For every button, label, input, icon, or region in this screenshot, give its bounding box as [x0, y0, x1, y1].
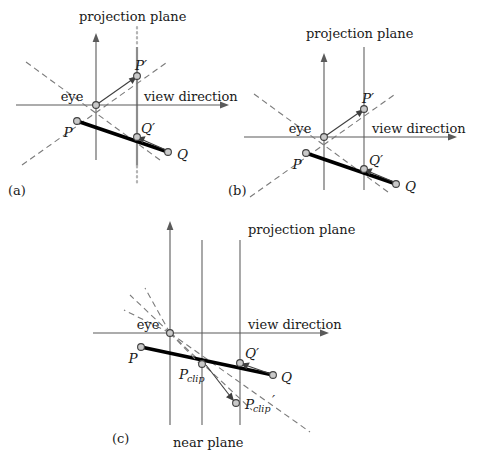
panel-b-vertical-axis-arrowhead: [321, 53, 328, 62]
panel-c-point-eye: [167, 330, 174, 337]
panel-c-title: projection plane: [248, 222, 356, 237]
panel-b-panel-label: (b): [228, 183, 246, 198]
panel-c-projector-Pclip-to-Pclip-prime: [206, 365, 230, 396]
panel-b-view-direction-label: view direction: [371, 121, 466, 136]
panel-b-label-P-prime: P′: [361, 90, 374, 106]
figure-root: projection plane eye view direction P P′…: [0, 0, 488, 461]
panel-b-eye-label: eye: [289, 121, 312, 136]
panel-c-label-Q-prime: Q′: [245, 345, 259, 361]
panel-c-label-P-clip-prime: P clip ′: [244, 392, 275, 414]
panel-c-near-plane-label: near plane: [173, 435, 244, 450]
panel-c-point-P-clip: [199, 361, 206, 368]
panel-b-point-Q-prime: [361, 166, 368, 173]
panel-a-label-Q-prime: Q′: [141, 120, 155, 136]
panel-b-label-P: P: [291, 156, 302, 172]
panel-b-projector-eye-to-Pprime: [324, 112, 360, 137]
panel-c: projection plane eye view direction P Q …: [93, 221, 356, 450]
panel-a-label-P: P: [62, 124, 73, 140]
panel-a-point-P-prime: [134, 73, 141, 80]
panel-a-label-Q: Q: [177, 146, 188, 162]
panel-a-projector-eye-to-Pprime: [96, 79, 133, 105]
panel-c-label-P-clip-subscript: clip: [187, 373, 204, 384]
panel-c-vertical-axis-arrowhead: [167, 221, 174, 230]
panel-b-label-Q-prime: Q′: [369, 152, 383, 168]
panel-a-title: projection plane: [79, 9, 187, 24]
panel-b-point-P: [303, 150, 310, 157]
panel-b-dashed-ray-eye-to-Pprime: [250, 95, 394, 197]
panel-a-vertical-axis-arrowhead: [93, 33, 100, 42]
panel-b-label-Q: Q: [405, 178, 416, 194]
panel-b: projection plane eye view direction P P′…: [228, 26, 466, 198]
panel-c-panel-label: (c): [112, 431, 129, 446]
panel-c-label-P-clip: P clip: [178, 366, 204, 384]
panel-c-projector-Pclip-prime-arrowhead: [226, 392, 234, 401]
panel-c-point-Q: [270, 372, 277, 379]
panel-c-point-Q-prime: [237, 360, 244, 367]
panel-b-point-eye: [321, 134, 328, 141]
panel-a-eye-label: eye: [61, 89, 84, 104]
panel-c-eye-label: eye: [137, 317, 160, 332]
panel-c-label-P-clip-prime-subscript: clip: [253, 403, 270, 414]
panel-c-label-P: P: [127, 350, 138, 366]
panel-c-label-Q: Q: [281, 369, 292, 385]
panel-a-point-Q-prime: [134, 134, 141, 141]
panel-a-point-P: [74, 118, 81, 125]
panel-b-title: projection plane: [306, 26, 414, 41]
panel-c-point-P-clip-prime: [233, 400, 240, 407]
panel-c-label-P-clip-prime-mark: ′: [272, 392, 275, 408]
panel-a-dashed-ray-eye-to-Pprime: [22, 63, 166, 165]
panel-b-point-P-prime: [361, 106, 368, 113]
panel-b-point-Q: [393, 181, 400, 188]
panel-a-view-direction-label: view direction: [143, 89, 238, 104]
panel-c-view-direction-label: view direction: [247, 317, 342, 332]
panel-a-label-P-prime: P′: [134, 57, 147, 73]
panel-c-point-P: [138, 344, 145, 351]
panel-a-panel-label: (a): [8, 183, 26, 198]
panel-a-point-Q: [165, 149, 172, 156]
projection-clipping-figure: projection plane eye view direction P P′…: [0, 0, 488, 461]
panel-a-point-eye: [93, 102, 100, 109]
panel-a: projection plane eye view direction P P′…: [8, 9, 238, 198]
